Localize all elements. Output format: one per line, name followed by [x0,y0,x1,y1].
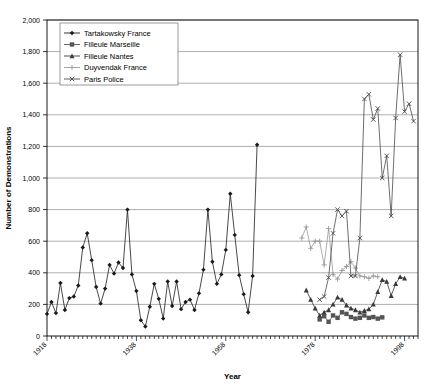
data-point [371,273,376,278]
data-point [376,316,380,320]
data-point [210,260,214,264]
data-point [335,295,340,300]
data-point [134,289,138,293]
data-point [322,314,326,318]
chart-container: 02004006008001,0001,2001,4001,6001,8002,… [0,0,432,385]
data-point [246,310,250,314]
data-point [313,306,318,311]
data-point [348,306,353,311]
data-point [308,246,313,251]
data-point [335,316,339,320]
data-point [192,308,196,312]
data-point [206,207,210,211]
data-point [299,235,304,240]
data-point [94,285,98,289]
data-point [304,288,309,293]
y-axis-tick-label: 0 [36,333,40,340]
data-point [81,245,85,249]
data-point [188,297,192,301]
data-point [85,231,89,235]
series-tartakowsky-france [45,143,259,329]
data-point [353,316,357,320]
data-point [357,273,362,278]
series-filleule-nantes [304,274,407,318]
data-point [362,313,366,317]
data-point [322,310,327,315]
y-axis-tick-label: 1,400 [22,111,40,118]
data-point [63,308,67,312]
data-point [367,316,371,320]
data-point [326,320,330,324]
data-point [317,239,322,244]
data-point [326,226,331,231]
data-point [45,312,49,316]
data-point [317,313,322,318]
x-axis-tick-label: 1938 [121,341,137,357]
data-point [107,263,111,267]
y-axis-tick-label: 2,000 [22,17,40,24]
data-point [393,281,398,286]
data-point [148,305,152,309]
data-point [72,294,76,298]
series-line [302,227,378,279]
series-line [320,55,414,300]
data-point [224,248,228,252]
data-point [349,315,353,319]
data-point [165,279,169,283]
data-point [76,283,80,287]
series-line [47,145,257,327]
y-axis-tick-label: 1,800 [22,48,40,55]
legend-label: Filleule Marseille [84,40,140,49]
data-point [152,282,156,286]
data-point [371,315,375,319]
data-point [322,262,327,267]
data-point [89,258,93,262]
y-axis-tick-label: 1,600 [22,80,40,87]
legend-label: Paris Police [84,75,124,84]
data-point [237,273,241,277]
data-point [183,300,187,304]
x-axis-title: Year [224,372,241,381]
x-axis-tick-label: 1918 [32,341,48,357]
y-axis-tick-label: 1,000 [22,175,40,182]
data-point [304,224,309,229]
data-point [358,316,362,320]
data-point [70,42,74,46]
data-point [67,296,71,300]
data-point [380,277,385,282]
data-point [313,239,318,244]
data-point [375,274,380,279]
data-point [98,301,102,305]
y-axis-tick-label: 600 [28,238,40,245]
data-point [389,293,394,298]
data-point [317,317,321,321]
data-point [197,291,201,295]
data-point [161,316,165,320]
data-point [344,312,348,316]
data-point [375,289,380,294]
series-filleule-marseille [317,310,384,324]
data-point [49,300,53,304]
data-point [228,192,232,196]
data-point [250,274,254,278]
data-point [353,265,358,270]
data-point [58,281,62,285]
data-point [362,274,367,279]
data-point [331,313,335,317]
x-axis-tick-label: 1998 [389,341,405,357]
data-point [241,292,245,296]
data-point [340,297,345,302]
data-point [340,214,344,218]
y-axis-tick-label: 800 [28,206,40,213]
data-point [157,297,161,301]
data-point [340,310,344,314]
y-axis-tick-label: 1,200 [22,143,40,150]
legend-label: Filleule Nantes [84,52,134,61]
data-point [233,233,237,237]
data-point [125,207,129,211]
data-point [317,297,321,301]
y-axis-tick-label: 400 [28,269,40,276]
x-axis-tick-label: 1958 [211,341,227,357]
data-point [112,271,116,275]
demonstrations-line-chart: 02004006008001,0001,2001,4001,6001,8002,… [0,0,432,385]
